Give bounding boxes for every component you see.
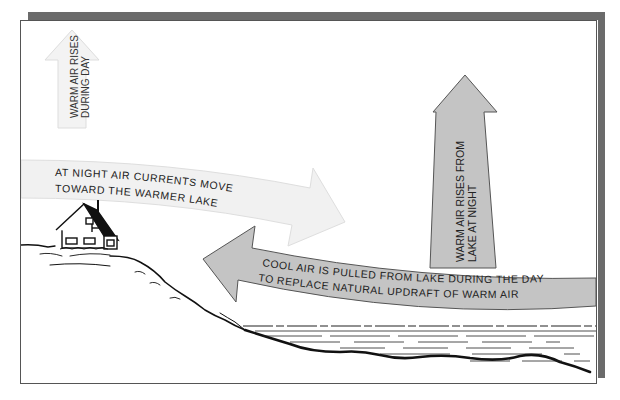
lake-breeze-diagram: WARM AIR RISES DURING DAY AT NIGHT AIR C…: [0, 0, 620, 400]
cool-air-arrow: COOL AIR IS PULLED FROM LAKE DURING THE …: [203, 226, 596, 310]
warm-air-day-line1: WARM AIR RISES: [69, 35, 80, 118]
warm-air-day-line2: DURING DAY: [80, 56, 91, 118]
house-icon: [56, 200, 118, 249]
warm-air-day-arrow: WARM AIR RISES DURING DAY: [45, 30, 99, 128]
warm-air-night-line2: LAKE AT NIGHT: [466, 184, 478, 262]
warm-air-night-line1: WARM AIR RISES FROM: [454, 141, 466, 262]
warm-air-night-arrow: WARM AIR RISES FROM LAKE AT NIGHT: [430, 75, 497, 268]
